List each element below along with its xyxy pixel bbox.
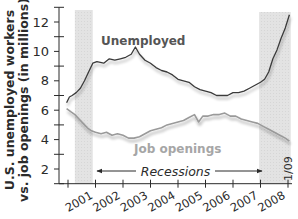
y-axis: 24681012 (32, 7, 64, 183)
x-axis: 20012002200320042005200620072008 (59, 180, 292, 215)
y-tick-label: 2 (41, 162, 49, 177)
unemployed-label: Unemployed (101, 34, 185, 48)
x-tick-label: 2008 (255, 188, 287, 215)
x-tick-label: 2001 (63, 188, 95, 215)
recession-band (75, 10, 93, 184)
end-date-label: 1/09 (282, 156, 295, 181)
y-tick-label: 12 (32, 15, 49, 30)
y-tick-label: 10 (32, 44, 49, 59)
recessions-label: Recessions (141, 164, 211, 179)
job-openings-label: Job openings (133, 142, 221, 156)
y-axis-label-line-2: vs. job openings (in millions) (16, 0, 31, 202)
x-tick-label: 2003 (118, 188, 150, 215)
y-tick-label: 4 (41, 132, 49, 147)
y-tick-label: 8 (41, 73, 49, 88)
x-tick-label: 2005 (173, 188, 205, 215)
y-tick-label: 6 (41, 103, 49, 118)
chart: U.S. unemployed workers vs. job openings… (0, 0, 298, 219)
recessions-annotation: Recessions (97, 164, 262, 179)
job-openings-line (67, 109, 290, 141)
x-tick-label: 2006 (200, 188, 232, 215)
x-tick-label: 2004 (145, 188, 177, 215)
y-axis-label: U.S. unemployed workers vs. job openings… (2, 0, 31, 202)
x-tick-label: 2007 (228, 188, 260, 215)
y-axis-label-line-1: U.S. unemployed workers (2, 10, 17, 190)
x-tick-label: 2002 (90, 188, 122, 215)
unemployed-line (67, 15, 290, 103)
